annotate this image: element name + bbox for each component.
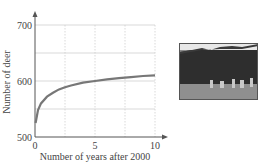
deer-photo-image — [180, 44, 258, 100]
y-tick-label: 700 — [17, 20, 32, 31]
line-chart: 0510500600700 Number of years after 2000… — [0, 0, 175, 168]
y-axis-arrow-icon — [33, 11, 38, 17]
x-tick-label: 0 — [33, 140, 38, 151]
tick-labels: 0510500600700 — [17, 20, 160, 152]
y-tick-label: 500 — [17, 132, 32, 143]
deer-photo — [179, 43, 258, 100]
y-axis-label: Number of deer — [1, 50, 12, 114]
y-tick-label: 600 — [17, 76, 32, 87]
x-tick-label: 10 — [150, 140, 160, 151]
x-axis-label: Number of years after 2000 — [40, 151, 151, 162]
x-axis-arrow-icon — [162, 135, 168, 140]
x-tick-label: 5 — [93, 140, 98, 151]
